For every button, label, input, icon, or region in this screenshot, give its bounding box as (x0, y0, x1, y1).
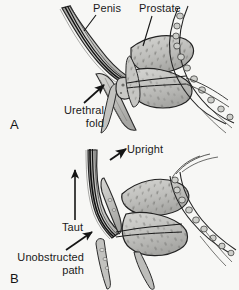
label-urethral-fold-line2: fold (86, 117, 104, 129)
anatomical-illustration (0, 0, 239, 290)
label-unobstructed-path-line1: Unobstructed (17, 251, 84, 263)
panel-letter-b: B (10, 271, 19, 286)
label-taut: Taut (62, 221, 83, 233)
figure-container: Penis Prostate Urethral fold A Upright T… (0, 0, 239, 290)
label-urethral-fold-line1: Urethral (64, 104, 104, 116)
label-penis: Penis (93, 2, 121, 14)
label-unobstructed-path-line2: path (62, 264, 84, 276)
label-prostate: Prostate (139, 2, 181, 14)
label-urethral-fold: Urethral fold (40, 104, 104, 129)
panel-letter-a: A (10, 117, 19, 132)
label-upright: Upright (127, 143, 163, 155)
